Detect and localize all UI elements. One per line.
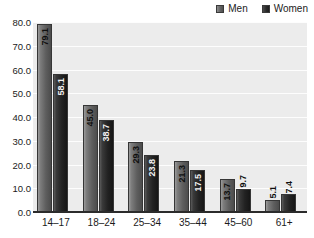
bar-value-label: 29.3: [131, 146, 140, 164]
bar-group: 13.79.7: [216, 22, 262, 212]
x-axis-tick-label: 61+: [276, 217, 293, 228]
y-axis-tick-label: 60.0: [0, 64, 31, 75]
bar-value-label: 23.8: [147, 159, 156, 177]
legend-item-men[interactable]: Men: [216, 3, 247, 14]
bar-value-label: 5.1: [268, 186, 277, 199]
bar-value-label: 7.4: [284, 181, 293, 194]
bar-group: 29.323.8: [124, 22, 170, 212]
y-axis-tick-label: 30.0: [0, 135, 31, 146]
bar-group: 21.317.5: [170, 22, 216, 212]
legend-label-men: Men: [228, 3, 247, 14]
bar-men[interactable]: 79.1: [37, 24, 52, 212]
y-axis-tick-label: 10.0: [0, 183, 31, 194]
bar-value-label: 21.3: [177, 165, 186, 183]
bar-value-label: 79.1: [40, 28, 49, 46]
bar-group: 45.038.7: [79, 22, 125, 212]
x-axis-tick-label: 25–34: [133, 217, 161, 228]
bar-value-label: 45.0: [86, 109, 95, 127]
x-axis-tick-label: 45–60: [225, 217, 253, 228]
x-axis-tick-label: 35–44: [179, 217, 207, 228]
x-axis-tick-label: 14–17: [42, 217, 70, 228]
men-swatch-icon: [216, 5, 224, 13]
y-axis-tick-label: 40.0: [0, 112, 31, 123]
bar-group: 79.158.1: [33, 22, 79, 212]
bar-women[interactable]: 38.7: [99, 120, 114, 212]
bar-value-label: 38.7: [102, 124, 111, 142]
y-axis-tick-label: 0.0: [0, 207, 31, 218]
x-axis-tick-label: 18–24: [88, 217, 116, 228]
y-axis-tick-label: 20.0: [0, 159, 31, 170]
bar-women[interactable]: 23.8: [144, 155, 159, 212]
bar-women[interactable]: 17.5: [190, 170, 205, 212]
legend-item-women[interactable]: Women: [262, 3, 308, 14]
bar-chart: Men Women 0.010.020.030.040.050.060.070.…: [0, 0, 314, 238]
legend-label-women: Women: [274, 3, 308, 14]
bar-men[interactable]: 13.7: [220, 179, 235, 212]
bar-value-label: 13.7: [223, 183, 232, 201]
bars-layer: 79.158.145.038.729.323.821.317.513.79.75…: [33, 22, 307, 212]
bar-men[interactable]: 21.3: [174, 161, 189, 212]
bar-women[interactable]: 9.7: [236, 189, 251, 212]
y-axis-tick-label: 80.0: [0, 17, 31, 28]
y-axis-tick-label: 70.0: [0, 40, 31, 51]
bar-women[interactable]: 58.1: [53, 74, 68, 212]
bar-value-label: 9.7: [239, 175, 248, 188]
y-axis-tick-label: 50.0: [0, 88, 31, 99]
chart-legend: Men Women: [216, 2, 308, 15]
x-axis-baseline: [33, 211, 307, 213]
bar-group: 5.17.4: [261, 22, 307, 212]
y-axis: 0.010.020.030.040.050.060.070.080.0: [0, 22, 31, 212]
bar-men[interactable]: 45.0: [83, 105, 98, 212]
x-axis: 14–1718–2425–3435–4445–6061+: [33, 215, 307, 233]
bar-men[interactable]: 29.3: [128, 142, 143, 212]
bar-women[interactable]: 7.4: [281, 194, 296, 212]
bar-value-label: 17.5: [193, 174, 202, 192]
bar-value-label: 58.1: [56, 78, 65, 96]
women-swatch-icon: [262, 5, 270, 13]
